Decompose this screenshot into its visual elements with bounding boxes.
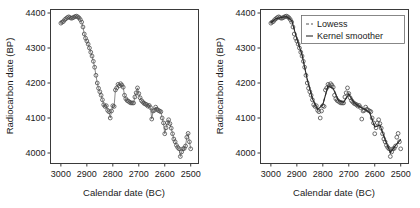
y-tick-label: 4000 <box>25 148 45 158</box>
x-tick-label: 3000 <box>261 169 281 179</box>
chart-panel-left: 40004100420043004400 3000290028002700260… <box>0 0 210 208</box>
data-point <box>344 91 348 95</box>
legend-label-lowess: Lowess <box>317 19 348 29</box>
y-axis-ticks-left: 40004100420043004400 <box>25 8 50 158</box>
y-tick-label: 4300 <box>235 43 255 53</box>
x-tick-label: 2900 <box>77 169 97 179</box>
figure-container: 40004100420043004400 3000290028002700260… <box>0 0 420 208</box>
x-tick-label: 2600 <box>155 169 175 179</box>
x-tick-label: 2800 <box>103 169 123 179</box>
x-tick-label: 2700 <box>129 169 149 179</box>
data-point <box>388 155 392 159</box>
y-tick-label: 4000 <box>235 148 255 158</box>
data-point <box>373 132 377 136</box>
x-axis-title-right: Calendar date (BC) <box>293 187 375 198</box>
y-tick-label: 4100 <box>235 113 255 123</box>
data-point <box>360 117 364 121</box>
y-axis-ticks-right: 40004100420043004400 <box>235 8 260 158</box>
x-tick-label: 2600 <box>365 169 385 179</box>
y-tick-label: 4200 <box>25 78 45 88</box>
data-point <box>395 135 399 139</box>
legend-right: Lowess Kernel smoother <box>302 16 405 44</box>
data-point <box>396 132 400 136</box>
y-tick-label: 4400 <box>235 8 255 18</box>
chart-panel-right: 40004100420043004400 3000290028002700260… <box>210 0 420 208</box>
x-axis-ticks-right: 300029002800270026002500 <box>261 164 411 179</box>
x-tick-label: 2500 <box>391 169 411 179</box>
data-point <box>346 86 350 90</box>
legend-label-kernel: Kernel smoother <box>317 31 383 41</box>
y-axis-title-right: Radiocarbon date (BP) <box>214 38 225 135</box>
x-tick-label: 2700 <box>339 169 359 179</box>
x-tick-label: 3000 <box>51 169 71 179</box>
data-point <box>320 109 324 113</box>
x-axis-title-left: Calendar date (BC) <box>83 187 165 198</box>
data-points-left <box>59 14 193 158</box>
x-tick-label: 2800 <box>313 169 333 179</box>
x-axis-ticks-left: 300029002800270026002500 <box>51 164 201 179</box>
y-tick-label: 4100 <box>25 113 45 123</box>
data-point <box>318 116 322 120</box>
y-tick-label: 4400 <box>25 8 45 18</box>
x-tick-label: 2900 <box>287 169 307 179</box>
data-point <box>399 147 403 151</box>
chart-svg-left: 40004100420043004400 3000290028002700260… <box>0 0 210 208</box>
y-axis-title-left: Radiocarbon date (BP) <box>4 38 15 135</box>
y-tick-label: 4300 <box>25 43 45 53</box>
y-tick-label: 4200 <box>235 78 255 88</box>
x-tick-label: 2500 <box>181 169 201 179</box>
chart-svg-right: 40004100420043004400 3000290028002700260… <box>210 0 420 208</box>
